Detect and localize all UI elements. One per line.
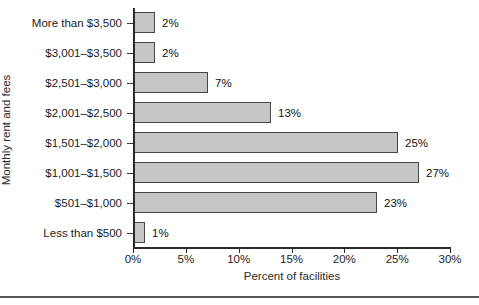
y-axis-line (133, 8, 135, 248)
bar (134, 102, 271, 123)
bar (134, 162, 419, 183)
bar (134, 42, 155, 63)
value-label: 2% (162, 8, 179, 38)
x-tick-label: 10% (219, 253, 259, 265)
bar-row: $2,001–$2,50013% (0, 98, 479, 128)
x-axis-title: Percent of facilities (133, 270, 451, 282)
x-tick-label: 5% (166, 253, 206, 265)
x-tick-label: 30% (430, 253, 470, 265)
value-label: 2% (162, 38, 179, 68)
bar-row: $1,501–$2,00025% (0, 128, 479, 158)
category-label: $1,001–$1,500 (0, 158, 122, 188)
category-label: $3,001–$3,500 (0, 38, 122, 68)
category-label: Less than $500 (0, 218, 122, 248)
bar (134, 72, 208, 93)
category-label: $2,001–$2,500 (0, 98, 122, 128)
bar (134, 192, 377, 213)
bar (134, 12, 155, 33)
value-label: 23% (384, 188, 407, 218)
bar-row: Less than $5001% (0, 218, 479, 248)
plot-area: More than $3,5002%$3,001–$3,5002%$2,501–… (0, 8, 479, 248)
category-label: $1,501–$2,000 (0, 128, 122, 158)
x-tick-label: 15% (272, 253, 312, 265)
value-label: 13% (278, 98, 301, 128)
x-tick-label: 25% (377, 253, 417, 265)
bar (134, 132, 398, 153)
category-label: $501–$1,000 (0, 188, 122, 218)
category-label: More than $3,500 (0, 8, 122, 38)
value-label: 25% (405, 128, 428, 158)
bar (134, 222, 145, 243)
bar-row: $2,501–$3,0007% (0, 68, 479, 98)
bar-row: More than $3,5002% (0, 8, 479, 38)
category-label: $2,501–$3,000 (0, 68, 122, 98)
x-tick-label: 0% (113, 253, 153, 265)
value-label: 7% (215, 68, 232, 98)
value-label: 27% (426, 158, 449, 188)
x-tick-label: 20% (324, 253, 364, 265)
bar-row: $501–$1,00023% (0, 188, 479, 218)
value-label: 1% (152, 218, 169, 248)
bar-row: $3,001–$3,5002% (0, 38, 479, 68)
bar-row: $1,001–$1,50027% (0, 158, 479, 188)
bar-chart-figure: Monthly rent and fees More than $3,5002%… (0, 0, 479, 305)
figure-bottom-rule (0, 296, 479, 298)
